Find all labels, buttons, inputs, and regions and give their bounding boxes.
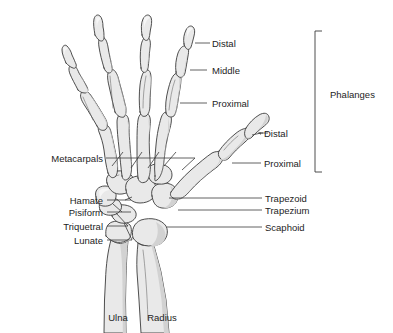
label-hamate: Hamate [0, 195, 103, 206]
bone-metacarpal-5 [98, 124, 117, 178]
bone-index-distal-phalanx [184, 26, 195, 49]
hand-skeleton-illustration [0, 0, 393, 333]
label-radius: Radius [140, 312, 184, 323]
bone-little-distal-phalanx [62, 45, 76, 68]
label-scaphoid: Scaphoid [265, 222, 305, 233]
label-trapezoid: Trapezoid [265, 193, 307, 204]
phalanges-bracket [315, 31, 322, 172]
bone-index-proximal-phalanx [166, 73, 181, 117]
label-index-middle: Middle [212, 65, 240, 76]
label-index-distal: Distal [212, 38, 236, 49]
bone-middle-proximal-phalanx [139, 70, 151, 117]
bone-little-proximal-phalanx [81, 91, 108, 131]
bone-middle-middle-phalanx [140, 37, 150, 73]
label-trapezium: Trapezium [265, 205, 310, 216]
hand-skeleton-diagram: Distal Middle Proximal Distal Proximal T… [0, 0, 393, 333]
bone-ring-distal-phalanx [94, 15, 104, 41]
label-ulna: Ulna [101, 312, 135, 323]
label-metacarpals: Metacarpals [0, 153, 103, 164]
bone-metacarpal-1 [170, 152, 223, 201]
label-lunate: Lunate [0, 235, 103, 246]
label-pisiform: Pisiform [0, 207, 103, 218]
bone-ring-middle-phalanx [99, 37, 113, 73]
bone-index-middle-phalanx [176, 46, 189, 78]
label-phalanges: Phalanges [330, 89, 375, 100]
bone-metacarpal-4 [117, 114, 132, 180]
label-thumb-proximal: Proximal [264, 158, 301, 169]
label-index-proximal: Proximal [212, 98, 249, 109]
bone-middle-distal-phalanx [141, 15, 151, 40]
bone-little-middle-phalanx [69, 65, 88, 93]
bone-metacarpal-3 [137, 113, 150, 183]
label-triquetral: Triquetral [0, 221, 103, 232]
label-thumb-distal: Distal [264, 128, 288, 139]
bone-ring-proximal-phalanx [108, 69, 127, 117]
